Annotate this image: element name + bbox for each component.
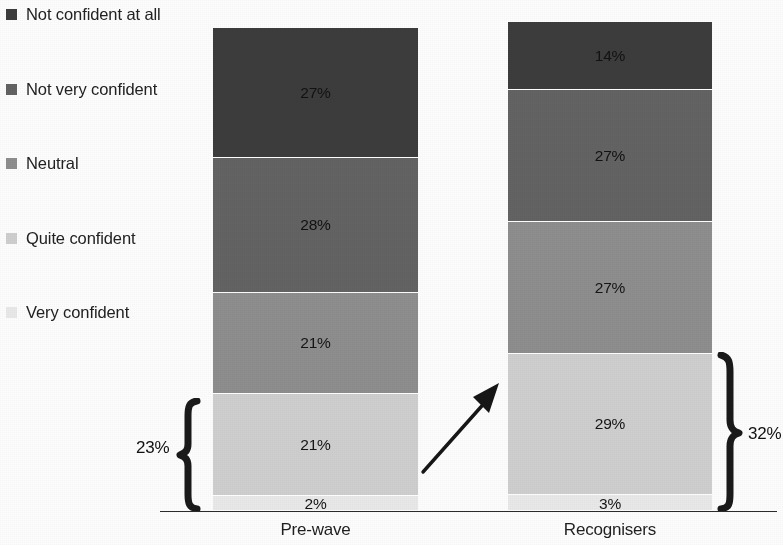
bar-segment-recognisers-not-very-confident[interactable]: 27% [508, 90, 712, 222]
bar-segment-recognisers-quite-confident[interactable]: 29% [508, 354, 712, 496]
bar-segment-value: 27% [300, 85, 330, 101]
bar-segment-pre-wave-very-confident[interactable]: 2% [213, 496, 418, 510]
bar-segment-value: 2% [304, 496, 326, 512]
stacked-bar-pre-wave[interactable]: 27% 28% 21% 21% 2% [213, 28, 418, 510]
x-axis-line [160, 511, 777, 512]
bar-segment-value: 27% [595, 280, 625, 296]
bar-segment-recognisers-not-confident-at-all[interactable]: 14% [508, 22, 712, 90]
right-brace-icon [715, 352, 743, 512]
left-brace-value: 23% [136, 438, 169, 458]
right-brace-value: 32% [748, 424, 781, 444]
x-axis-label-pre-wave: Pre-wave [213, 520, 418, 540]
bar-segment-recognisers-neutral[interactable]: 27% [508, 222, 712, 354]
bar-segment-value: 21% [300, 335, 330, 351]
bar-segment-value: 3% [599, 496, 621, 512]
x-axis-label-recognisers: Recognisers [508, 520, 712, 540]
bar-segment-pre-wave-not-very-confident[interactable]: 28% [213, 158, 418, 293]
bar-segment-value: 29% [595, 416, 625, 432]
growth-arrow-icon [415, 375, 507, 480]
plot-area: 27% 28% 21% 21% 2% 14% 27% [0, 0, 783, 545]
bar-segment-recognisers-very-confident[interactable]: 3% [508, 495, 712, 510]
left-brace-icon [176, 398, 202, 512]
bar-segment-pre-wave-quite-confident[interactable]: 21% [213, 394, 418, 495]
stacked-bar-recognisers[interactable]: 14% 27% 27% 29% 3% [508, 22, 712, 510]
bar-segment-pre-wave-neutral[interactable]: 21% [213, 293, 418, 394]
bar-segment-pre-wave-not-confident-at-all[interactable]: 27% [213, 28, 418, 158]
bar-segment-value: 14% [595, 48, 625, 64]
chart-canvas: Not confident at all Not very confident … [0, 0, 783, 545]
bar-segment-value: 27% [595, 148, 625, 164]
bar-segment-value: 21% [300, 437, 330, 453]
bar-segment-value: 28% [300, 217, 330, 233]
